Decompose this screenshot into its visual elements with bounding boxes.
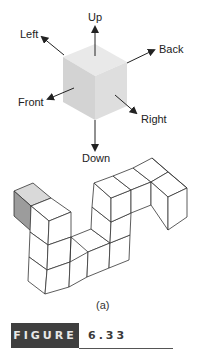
label-left: Left — [20, 28, 38, 40]
figure-label: FIGURE — [13, 329, 77, 342]
label-down: Down — [82, 152, 110, 164]
subcaption: (a) — [96, 299, 109, 311]
step-cube-front — [69, 252, 88, 287]
label-front: Front — [18, 96, 44, 108]
caption-rule — [79, 348, 173, 349]
figure-canvas: Up Left Back Front Right Down — [0, 0, 202, 350]
label-back: Back — [159, 43, 184, 55]
label-up: Up — [88, 11, 102, 23]
label-right: Right — [141, 113, 167, 125]
figure-label-box: FIGURE — [11, 323, 79, 348]
left-arrow-icon — [42, 37, 64, 55]
figure-number: 6.33 — [88, 329, 127, 342]
back-arrow-icon — [127, 50, 154, 63]
block-structure — [14, 158, 187, 294]
